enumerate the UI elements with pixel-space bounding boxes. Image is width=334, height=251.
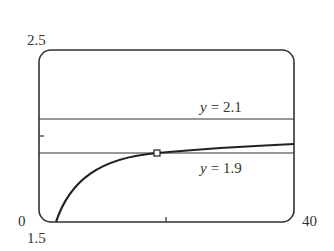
intersection-marker	[154, 150, 160, 156]
function-curve	[56, 144, 294, 222]
x-max-label: 40	[302, 213, 317, 229]
chart: 2.5 1.5 0 40 y= 2.1 y= 1.9	[0, 0, 334, 251]
y-max-label: 2.5	[27, 32, 46, 48]
plot-frame	[39, 50, 294, 222]
x-min-label: 0	[18, 213, 26, 229]
lower-line-label: y= 1.9	[198, 160, 242, 176]
upper-line-label: y= 2.1	[198, 99, 242, 115]
y-min-label: 1.5	[27, 230, 46, 246]
